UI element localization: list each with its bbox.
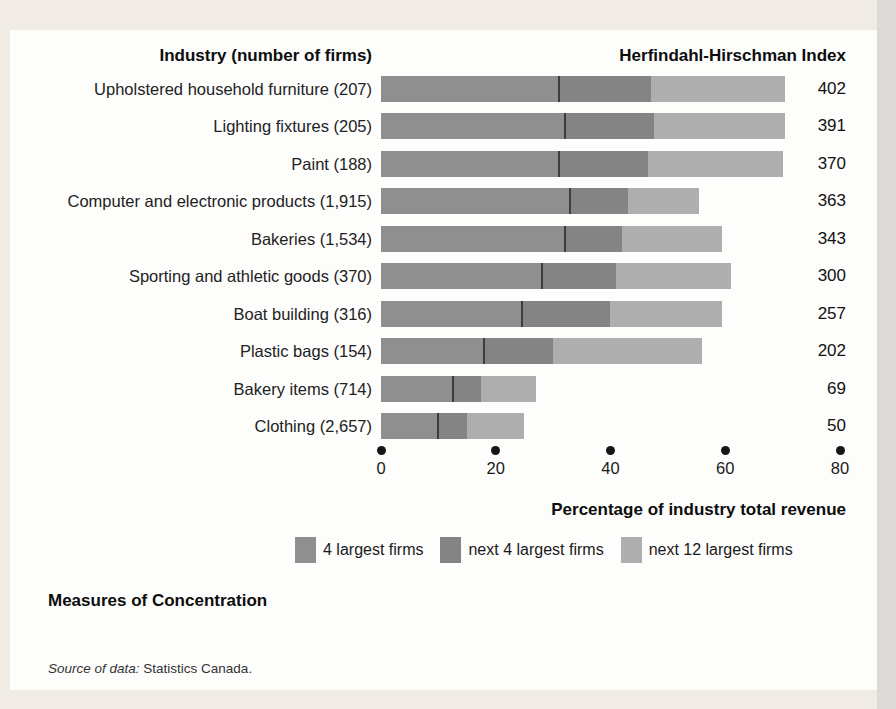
industry-label: Clothing (2,657)	[10, 413, 372, 439]
chart-row: Paint (188)370	[10, 151, 877, 177]
industry-label: Upholstered household furniture (207)	[10, 76, 372, 102]
bar-segment-2	[559, 76, 651, 102]
stacked-bar	[381, 301, 722, 327]
chart-row: Clothing (2,657)50	[10, 413, 877, 439]
segment-divider	[483, 338, 485, 364]
textbook-page: Industry (number of firms) Herfindahl-Hi…	[0, 0, 896, 709]
hhi-value: 343	[770, 226, 846, 252]
figure-panel: Industry (number of firms) Herfindahl-Hi…	[10, 30, 877, 690]
segment-divider	[558, 76, 560, 102]
bar-segment-3	[553, 338, 702, 364]
bar-segment-3	[628, 188, 700, 214]
industry-label: Lighting fixtures (205)	[10, 113, 372, 139]
segment-divider	[564, 113, 566, 139]
bar-segment-3	[481, 376, 536, 402]
bar-segment-2	[484, 338, 553, 364]
segment-divider	[452, 376, 454, 402]
stacked-bar	[381, 113, 785, 139]
bar-segment-1	[381, 76, 559, 102]
segment-divider	[569, 188, 571, 214]
chart-row: Boat building (316)257	[10, 301, 877, 327]
stacked-bar	[381, 263, 731, 289]
bar-segment-2	[559, 151, 648, 177]
hhi-value: 50	[770, 413, 846, 439]
bar-segment-3	[651, 76, 786, 102]
segment-divider	[558, 151, 560, 177]
bar-segment-2	[438, 413, 467, 439]
segment-divider	[564, 226, 566, 252]
bar-segment-1	[381, 113, 565, 139]
legend-item: next 12 largest firms	[621, 537, 793, 563]
chart-row: Lighting fixtures (205)391	[10, 113, 877, 139]
bar-segment-1	[381, 301, 522, 327]
hhi-value: 202	[770, 338, 846, 364]
figure-title: Measures of Concentration	[48, 591, 267, 611]
hhi-value: 363	[770, 188, 846, 214]
hhi-value: 370	[770, 151, 846, 177]
bar-segment-2	[565, 113, 654, 139]
bar-segment-2	[542, 263, 617, 289]
industry-label: Bakery items (714)	[10, 376, 372, 402]
axis-tick-dot	[377, 446, 386, 455]
bar-segment-2	[565, 226, 622, 252]
bar-segment-1	[381, 338, 484, 364]
axis-tick-label: 0	[361, 459, 401, 478]
bar-segment-1	[381, 188, 570, 214]
legend: 4 largest firmsnext 4 largest firmsnext …	[295, 537, 793, 563]
bar-segment-3	[467, 413, 524, 439]
legend-label: 4 largest firms	[323, 541, 423, 559]
chart-row: Bakeries (1,534)343	[10, 226, 877, 252]
stacked-bar	[381, 76, 785, 102]
bar-segment-1	[381, 413, 438, 439]
industry-label: Boat building (316)	[10, 301, 372, 327]
source-text: Statistics Canada.	[143, 661, 252, 676]
industry-label: Plastic bags (154)	[10, 338, 372, 364]
industry-label: Computer and electronic products (1,915)	[10, 188, 372, 214]
axis-tick-label: 20	[476, 459, 516, 478]
hhi-value: 69	[770, 376, 846, 402]
hhi-value: 391	[770, 113, 846, 139]
bar-segment-1	[381, 151, 559, 177]
legend-swatch	[440, 537, 461, 563]
hhi-value: 257	[770, 301, 846, 327]
stacked-bar	[381, 376, 536, 402]
stacked-bar	[381, 226, 722, 252]
legend-swatch	[621, 537, 642, 563]
bar-segment-2	[570, 188, 627, 214]
bar-segment-3	[616, 263, 731, 289]
legend-label: next 12 largest firms	[649, 541, 793, 559]
bar-segment-1	[381, 376, 453, 402]
hhi-value: 300	[770, 263, 846, 289]
stacked-bar	[381, 413, 524, 439]
chart-row: Plastic bags (154)202	[10, 338, 877, 364]
axis-tick-dot	[491, 446, 500, 455]
industry-label: Paint (188)	[10, 151, 372, 177]
axis-tick-dot	[721, 446, 730, 455]
stacked-bar	[381, 151, 783, 177]
axis-tick-label: 40	[591, 459, 631, 478]
bar-segment-1	[381, 263, 542, 289]
industry-column-header: Industry (number of firms)	[10, 46, 372, 66]
hhi-column-header: Herfindahl-Hirschman Index	[570, 46, 846, 66]
hhi-value: 402	[770, 76, 846, 102]
bar-segment-3	[654, 113, 786, 139]
axis-tick-dot	[606, 446, 615, 455]
chart-row: Computer and electronic products (1,915)…	[10, 188, 877, 214]
legend-item: next 4 largest firms	[440, 537, 603, 563]
industry-label: Sporting and athletic goods (370)	[10, 263, 372, 289]
page-edge-strip	[877, 0, 896, 709]
bar-segment-1	[381, 226, 565, 252]
stacked-bar	[381, 188, 699, 214]
segment-divider	[437, 413, 439, 439]
axis-tick-dot	[836, 446, 845, 455]
bar-segment-3	[622, 226, 722, 252]
bar-segment-3	[610, 301, 722, 327]
stacked-bar	[381, 338, 702, 364]
x-axis-title: Percentage of industry total revenue	[381, 500, 846, 520]
axis-tick-label: 80	[820, 459, 860, 478]
bar-segment-3	[648, 151, 783, 177]
chart-row: Upholstered household furniture (207)402	[10, 76, 877, 102]
bar-segment-2	[453, 376, 482, 402]
legend-item: 4 largest firms	[295, 537, 423, 563]
chart-row: Sporting and athletic goods (370)300	[10, 263, 877, 289]
